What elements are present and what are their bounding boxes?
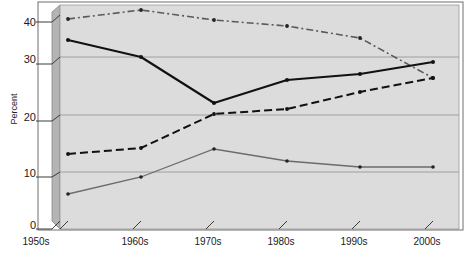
axis-left-wall xyxy=(52,5,60,229)
chart-figure: Percent 40 30 20 10 0 1950s 1960s 1970s … xyxy=(0,0,465,265)
chart-canvas xyxy=(0,0,465,265)
plot-background xyxy=(60,5,459,229)
